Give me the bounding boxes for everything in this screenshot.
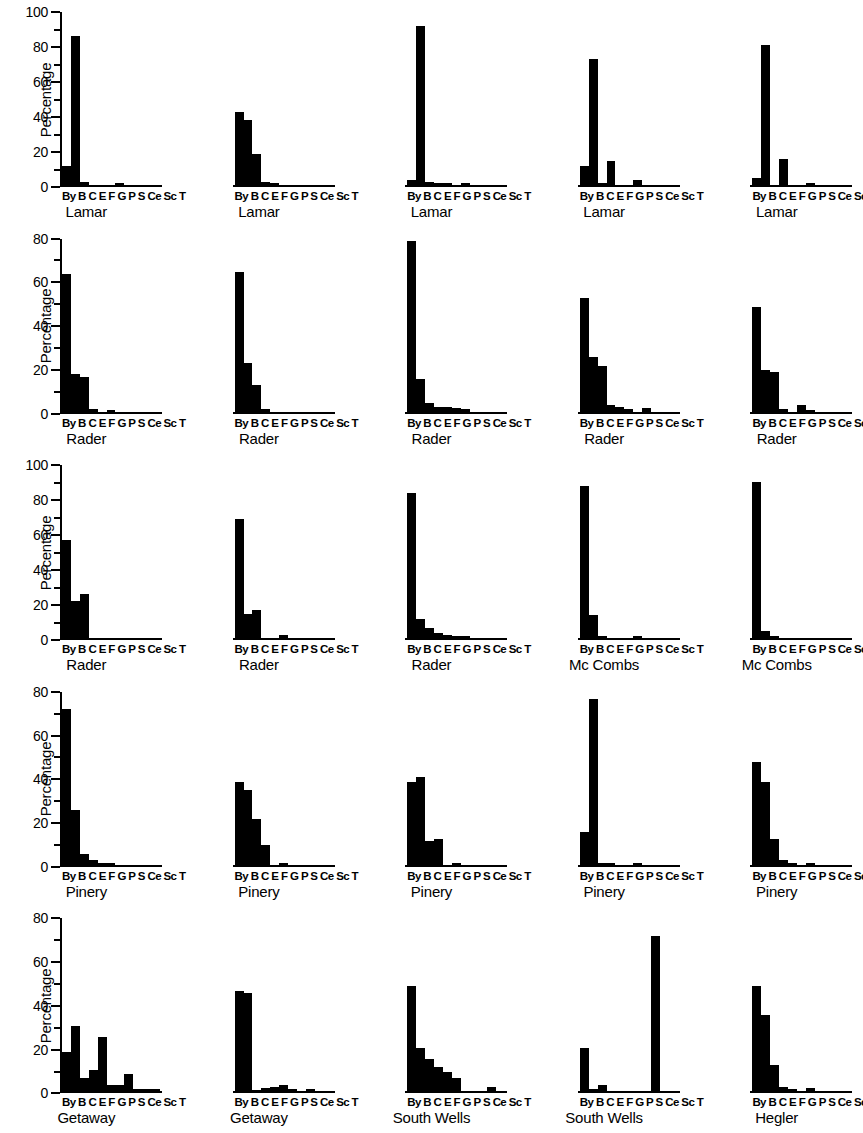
chart-panel: By B C E F G P S Ce Sc TPinery — [518, 680, 691, 907]
panel-title: Mc Combs — [690, 656, 863, 673]
bar-series — [62, 12, 160, 185]
x-axis-labels: By B C E F G P S Ce Sc T — [752, 870, 852, 882]
chart-panel: By B C E F G P S Ce Sc TSouth Wells — [518, 906, 691, 1133]
x-axis-labels: By B C E F G P S Ce Sc T — [407, 417, 507, 429]
y-axis-label: 60 — [33, 275, 48, 289]
bar-B — [761, 782, 770, 865]
x-axis-labels: By B C E F G P S Ce Sc T — [235, 417, 335, 429]
x-axis-labels: By B C E F G P S Ce Sc T — [580, 643, 680, 655]
bar-C — [80, 377, 89, 412]
y-axis-minor-tick — [54, 99, 60, 101]
bar-B — [416, 619, 425, 638]
chart-panel: By B C E F G P S Ce Sc TRader — [173, 453, 346, 680]
bar-By — [580, 166, 589, 185]
x-axis-line — [405, 865, 507, 867]
bar-C — [80, 854, 89, 865]
bar-G — [452, 408, 461, 411]
chart-panel: Percentage020406080100By B C E F G P S C… — [0, 0, 173, 227]
y-axis-label: 0 — [41, 180, 49, 194]
y-axis-label: 80 — [33, 40, 48, 54]
y-axis-tick — [51, 1005, 60, 1007]
chart-row: Percentage020406080100By B C E F G P S C… — [0, 453, 863, 680]
y-axis-label: 60 — [33, 528, 48, 542]
y-axis-tick — [51, 691, 60, 693]
chart-panel: Percentage020406080By B C E F G P S Ce S… — [0, 680, 173, 907]
y-axis-tick — [51, 569, 60, 571]
x-axis-labels: By B C E F G P S Ce Sc T — [407, 1096, 507, 1108]
bar-series — [62, 465, 160, 638]
bar-B — [761, 370, 770, 412]
y-axis-minor-tick — [54, 1071, 60, 1073]
x-axis-line — [60, 185, 162, 187]
panel-title: Lamar — [345, 203, 518, 220]
x-axis-line — [578, 1091, 680, 1093]
bar-series — [580, 12, 678, 185]
x-axis-labels: By B C E F G P S Ce Sc T — [62, 870, 162, 882]
x-axis-labels: By B C E F G P S Ce Sc T — [62, 417, 162, 429]
bar-G — [107, 410, 116, 412]
y-axis-label: 40 — [33, 319, 48, 333]
y-axis-tick — [51, 604, 60, 606]
bar-G — [452, 1078, 461, 1091]
y-axis-label: 100 — [26, 458, 48, 472]
x-axis-labels: By B C E F G P S Ce Sc T — [407, 870, 507, 882]
chart-panel: By B C E F G P S Ce Sc TGetaway — [173, 906, 346, 1133]
x-axis-line — [578, 185, 680, 187]
bar-F — [443, 407, 452, 411]
figure-panel-grid: Percentage020406080100By B C E F G P S C… — [0, 0, 863, 1133]
x-axis-line — [750, 1091, 852, 1093]
x-axis-line — [405, 1091, 507, 1093]
bar-G — [279, 1085, 288, 1092]
chart-panel: By B C E F G P S Ce Sc TMc Combs — [690, 453, 863, 680]
bar-B — [244, 363, 253, 411]
bar-C — [598, 863, 607, 865]
bar-series — [580, 692, 678, 865]
bar-B — [761, 631, 770, 638]
chart-panel: By B C E F G P S Ce Sc TLamar — [518, 0, 691, 227]
bar-By — [235, 272, 244, 412]
bar-series — [235, 12, 333, 185]
bar-By — [752, 178, 761, 185]
y-axis-tick — [51, 238, 60, 240]
bar-C — [425, 182, 434, 186]
bar-B — [244, 614, 253, 639]
bar-C — [80, 594, 89, 638]
chart-row: Percentage020406080By B C E F G P S Ce S… — [0, 906, 863, 1133]
chart-panel: By B C E F G P S Ce Sc TLamar — [173, 0, 346, 227]
bar-B — [244, 790, 253, 864]
x-axis-line — [578, 865, 680, 867]
x-axis-line — [405, 185, 507, 187]
bar-series — [407, 692, 505, 865]
bar-T — [151, 1089, 160, 1091]
chart-row: Percentage020406080By B C E F G P S Ce S… — [0, 680, 863, 907]
y-axis-label: 20 — [33, 363, 48, 377]
x-axis-line — [233, 185, 335, 187]
chart-panel: By B C E F G P S Ce Sc TMc Combs — [518, 453, 691, 680]
bar-B — [761, 1015, 770, 1092]
panel-title: Rader — [0, 656, 173, 673]
chart-panel: By B C E F G P S Ce Sc TPinery — [173, 680, 346, 907]
y-axis-minor-tick — [54, 169, 60, 171]
y-axis-minor-tick — [54, 347, 60, 349]
y-axis-tick — [51, 464, 60, 466]
panel-title: South Wells — [345, 1109, 518, 1126]
y-axis-label: 40 — [33, 772, 48, 786]
bar-C — [252, 819, 261, 865]
panel-title: Pinery — [345, 883, 518, 900]
x-axis-labels: By B C E F G P S Ce Sc T — [407, 643, 507, 655]
bar-series — [580, 239, 678, 412]
bar-B — [416, 379, 425, 412]
bar-P — [461, 183, 470, 185]
y-axis-minor-tick — [54, 391, 60, 393]
bar-E — [779, 409, 788, 411]
y-axis-tick — [51, 369, 60, 371]
bar-Sc — [142, 1089, 151, 1091]
bar-G — [797, 405, 806, 412]
bar-series — [235, 692, 333, 865]
y-axis-tick — [51, 413, 60, 415]
x-axis-line — [60, 865, 162, 867]
bar-S — [124, 1074, 133, 1092]
x-axis-labels: By B C E F G P S Ce Sc T — [235, 190, 335, 202]
bar-C — [770, 839, 779, 865]
bar-By — [407, 241, 416, 412]
